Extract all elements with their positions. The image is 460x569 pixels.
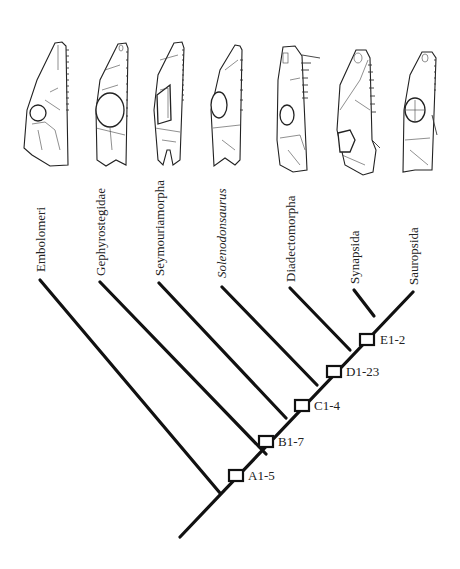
synapsid-skull	[337, 50, 380, 175]
synapomorphy-label-e: E1-2	[380, 332, 405, 347]
diadectomorph-skull	[277, 46, 320, 172]
synapomorphy-label-d: D1-23	[346, 364, 379, 379]
embolomere-skull	[24, 42, 69, 166]
taxon-label-embolomeri: Embolomeri	[33, 207, 48, 272]
taxon-label-sauropsida: Sauropsida	[406, 227, 421, 285]
solenodonsaurus-skull	[211, 45, 243, 166]
taxon-label-synapsida: Synapsida	[347, 230, 362, 284]
synapomorphy-box-a	[229, 470, 243, 481]
synapomorphy-labels: A1-5 B1-7 C1-4 D1-23 E1-2	[248, 332, 405, 483]
tree-branches	[40, 280, 413, 537]
synapomorphy-box-d	[327, 366, 341, 377]
synapomorphy-box-b	[259, 436, 273, 447]
synapomorphy-box-c	[295, 400, 309, 411]
sauropsid-skull	[403, 52, 437, 172]
taxon-label-diadectomorpha: Diadectomorpha	[283, 195, 298, 282]
branch-seymouriamorpha	[159, 283, 286, 418]
branch-synapsida	[354, 290, 374, 316]
synapomorphy-label-c: C1-4	[314, 398, 341, 413]
taxon-label-gephyrostegidae: Gephyrostegidae	[93, 188, 108, 276]
gephyrostegid-skull	[96, 43, 128, 166]
branch-diadectomorpha	[290, 288, 350, 350]
synapomorphy-box-e	[360, 334, 374, 345]
seymouriamorph-skull	[154, 42, 184, 165]
spine-branch	[180, 292, 413, 537]
taxon-labels: Embolomeri Gephyrostegidae Seymouriamorp…	[33, 180, 421, 285]
synapomorphy-label-a: A1-5	[248, 468, 275, 483]
cladogram-figure: A1-5 B1-7 C1-4 D1-23 E1-2 Embolomeri Gep…	[0, 0, 460, 569]
taxon-label-seymouriamorpha: Seymouriamorpha	[152, 180, 167, 276]
taxon-label-solenodonsaurus: Solenodonsaurus	[214, 188, 229, 278]
synapomorphy-label-b: B1-7	[278, 434, 305, 449]
